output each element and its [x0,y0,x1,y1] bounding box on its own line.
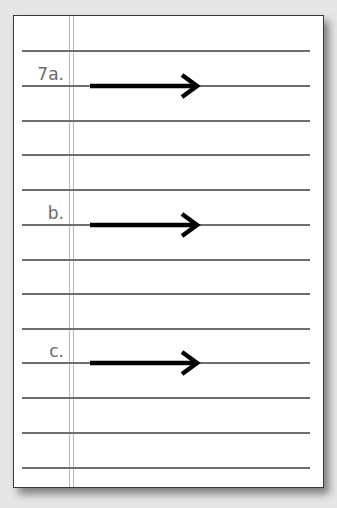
ruled-line [22,50,310,52]
right-arrow-icon [90,212,202,238]
ruled-line [22,154,310,156]
margin-line-right [73,16,74,487]
notebook-page: 7a. b. c. [13,15,324,488]
ruled-line [22,120,310,122]
right-arrow-icon [90,73,202,99]
ruled-line [22,189,310,191]
ruled-line [22,259,310,261]
ruled-line [22,328,310,330]
ruled-line [22,467,310,469]
item-label-b: b. [14,203,64,223]
ruled-line [22,293,310,295]
ruled-line [22,432,310,434]
ruled-line [22,397,310,399]
item-label-7a: 7a. [14,64,64,84]
margin-line-left [69,16,70,487]
right-arrow-icon [90,350,202,376]
item-label-c: c. [14,341,64,361]
